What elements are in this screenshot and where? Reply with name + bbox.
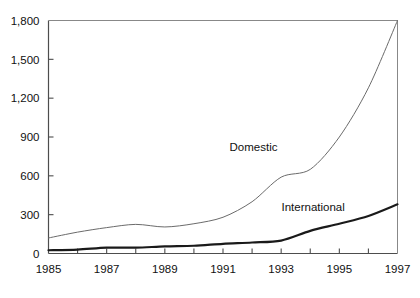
line-chart: 03006009001,2001,5001,800 19851987198919… — [0, 0, 420, 298]
series-label-domestic: Domestic — [230, 141, 278, 153]
x-tick-label: 1993 — [268, 263, 294, 275]
y-tick-label: 1,800 — [11, 15, 40, 27]
y-tick-label: 0 — [33, 248, 39, 260]
x-tick-label: 1989 — [152, 263, 178, 275]
x-tick-label: 1995 — [327, 263, 353, 275]
x-tick-label: 1985 — [36, 263, 62, 275]
y-tick-label: 300 — [20, 209, 39, 221]
series-label-international: International — [282, 201, 345, 213]
x-tick-label: 1997 — [385, 263, 411, 275]
x-tick-label: 1991 — [210, 263, 236, 275]
y-tick-label: 900 — [20, 131, 39, 143]
y-tick-label: 600 — [20, 170, 39, 182]
chart-container: 03006009001,2001,5001,800 19851987198919… — [0, 0, 420, 298]
y-tick-label: 1,500 — [11, 54, 40, 66]
x-tick-label: 1987 — [94, 263, 120, 275]
y-tick-label: 1,200 — [11, 92, 40, 104]
